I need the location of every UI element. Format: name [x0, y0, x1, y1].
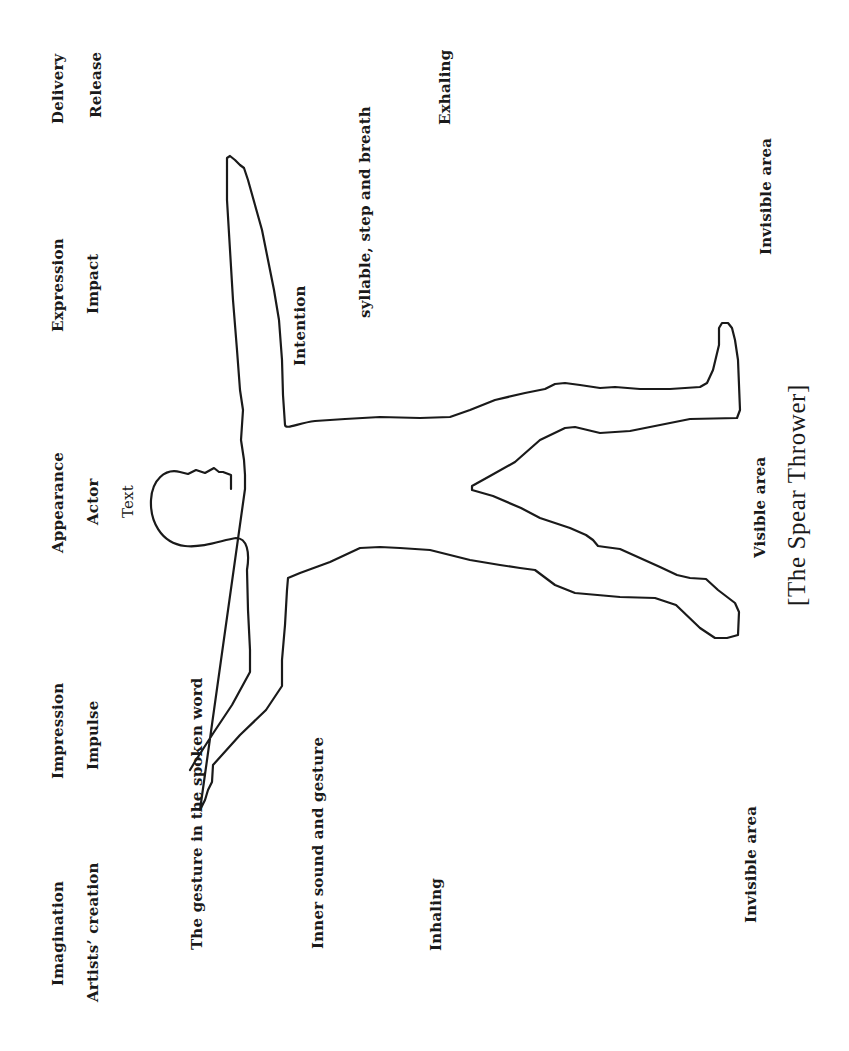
label-artists-creation: Artists’ creation [86, 862, 101, 1002]
label-visible-area: Visible area [753, 457, 768, 558]
label-impact: Impact [86, 254, 101, 314]
label-imagination: Imagination [51, 881, 66, 986]
figure-caption: [The Spear Thrower] [784, 384, 809, 606]
label-impression: Impression [51, 683, 66, 779]
human-figure-outline [0, 0, 849, 1051]
label-actor: Actor [86, 478, 101, 525]
label-delivery: Delivery [51, 54, 66, 124]
spear-thrower-diagram: Delivery Release Expression Impact Appea… [0, 0, 849, 1051]
label-text: Text [121, 485, 136, 518]
label-appearance: Appearance [51, 452, 66, 553]
body-outline-path [151, 156, 740, 810]
label-invisible-area-top: Invisible area [759, 138, 774, 255]
label-inner-sound-gesture: Inner sound and gesture [311, 737, 326, 949]
label-gesture-spoken-word: The gesture in the spoken word [190, 677, 205, 950]
label-inhaling: Inhaling [429, 878, 444, 951]
label-exhaling: Exhaling [438, 50, 453, 125]
label-intention: Intention [293, 285, 308, 366]
label-impulse: Impulse [86, 701, 101, 770]
label-syllable-step-breath: syllable, step and breath [358, 106, 373, 318]
label-expression: Expression [51, 238, 66, 332]
label-release: Release [89, 52, 104, 118]
label-invisible-area-bottom: Invisible area [744, 806, 759, 923]
